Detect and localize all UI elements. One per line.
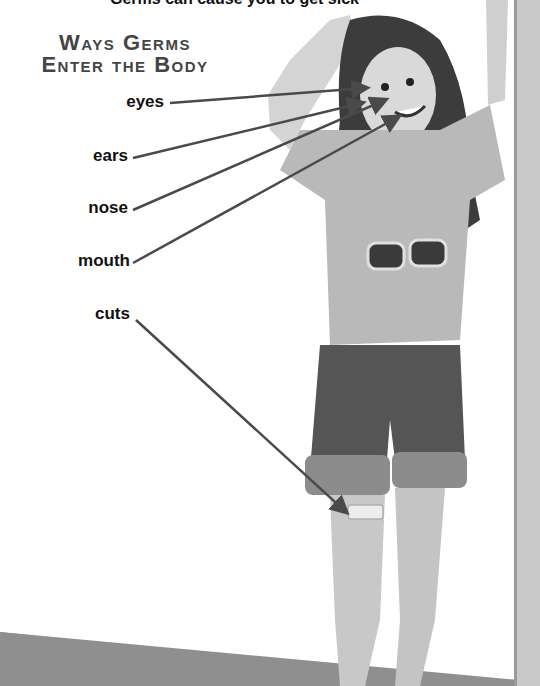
eye — [381, 83, 389, 91]
title-line-1: Ways Germs — [0, 32, 250, 54]
knee-bandage — [348, 505, 383, 519]
label-mouth: mouth — [10, 251, 130, 271]
label-ears: ears — [8, 146, 128, 166]
label-eyes: eyes — [44, 92, 164, 112]
cutoff-caption: Germs can cause you to get sick — [110, 0, 359, 8]
diagram-title: Ways Germs Enter the Body — [0, 32, 250, 76]
face — [360, 47, 436, 143]
label-nose: nose — [8, 198, 128, 218]
label-cuts: cuts — [10, 304, 130, 324]
wooden-post — [516, 0, 540, 686]
title-line-2: Enter the Body — [0, 54, 250, 76]
girl-figure — [268, 0, 508, 686]
arrow-eyes — [170, 88, 366, 103]
